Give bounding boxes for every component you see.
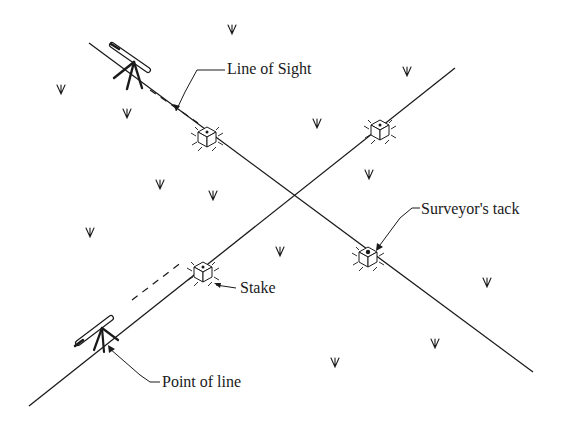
grass-icon <box>331 358 339 367</box>
stake-upper-right <box>364 120 396 144</box>
grass-icon <box>156 180 164 189</box>
transit-icon <box>75 318 118 352</box>
nail-dot <box>202 266 205 269</box>
tack-icon <box>366 250 370 254</box>
grass-icon <box>365 170 373 179</box>
grass-icon <box>228 25 236 34</box>
grass-icon <box>431 339 439 348</box>
line-b <box>29 68 455 406</box>
grass-icon <box>57 85 65 94</box>
instruments <box>75 44 148 352</box>
grass-icon <box>403 67 411 76</box>
stakes <box>187 120 396 286</box>
grass-icon <box>209 191 217 200</box>
nail-dot <box>206 131 209 134</box>
label-line-of-sight: Line of Sight <box>227 61 311 77</box>
grass-icon <box>86 228 94 237</box>
leader-surveyors-tack <box>377 208 420 249</box>
grass-icon <box>483 278 491 287</box>
grass-icon <box>123 109 131 118</box>
nail-dot <box>379 124 382 127</box>
label-surveyors-tack: Surveyor's tack <box>421 201 519 217</box>
grass-icon <box>276 247 284 256</box>
leader-point-of-line <box>109 348 160 382</box>
label-point-of-line: Point of line <box>162 374 241 390</box>
label-stake: Stake <box>240 280 276 296</box>
grass-icon <box>313 119 321 128</box>
stake-lower-right <box>352 247 384 271</box>
label-leaders <box>108 70 420 382</box>
leader-line-of-sight <box>176 70 225 111</box>
stake-lower-left <box>187 262 219 286</box>
